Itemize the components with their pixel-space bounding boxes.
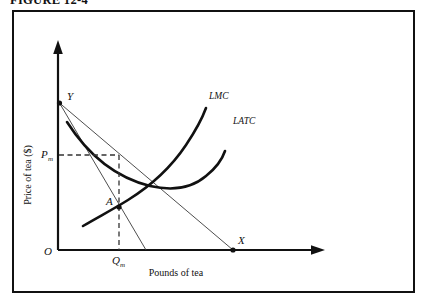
figure-plot: Y X A LMC LATC P m Q m O Price of tea ($… bbox=[0, 0, 425, 306]
label-quantity-monopoly-base: Q bbox=[112, 254, 120, 266]
axis-group bbox=[53, 40, 325, 255]
label-origin: O bbox=[44, 245, 52, 257]
marginal-revenue-line bbox=[60, 103, 147, 250]
figure-root: FIGURE 12-4 Y X A bbox=[0, 0, 425, 306]
label-price-monopoly: P m bbox=[40, 148, 53, 163]
label-price-monopoly-base: P bbox=[40, 148, 48, 160]
x-axis-arrowhead bbox=[311, 245, 325, 255]
lmc-curve bbox=[83, 108, 206, 226]
label-quantity-monopoly: Q m bbox=[112, 254, 125, 269]
label-demand-top-y: Y bbox=[67, 90, 75, 102]
label-latc-curve: LATC bbox=[232, 116, 256, 126]
y-axis-arrowhead bbox=[53, 40, 63, 54]
label-price-monopoly-subscript: m bbox=[48, 155, 53, 163]
point-a-marker bbox=[116, 204, 121, 209]
y-axis-title: Price of tea ($) bbox=[22, 145, 34, 205]
label-point-a: A bbox=[105, 195, 113, 207]
label-lmc-curve: LMC bbox=[208, 91, 229, 101]
point-x-marker bbox=[230, 247, 235, 252]
label-demand-bottom-x: X bbox=[237, 234, 246, 246]
x-axis-title: Pounds of tea bbox=[149, 267, 204, 278]
label-quantity-monopoly-subscript: m bbox=[120, 261, 125, 269]
point-y-marker bbox=[57, 100, 62, 105]
